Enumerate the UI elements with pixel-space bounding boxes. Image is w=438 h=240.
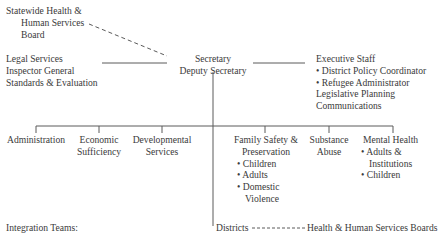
secretary-label: Secretary xyxy=(170,53,256,65)
executive-staff-node: Executive Staff District Policy Coordina… xyxy=(316,53,426,112)
division-family-safety: Family Safety & Preservation Children Ad… xyxy=(234,134,298,205)
bullet-adults: Adults xyxy=(234,169,298,181)
deputy-secretary-label: Deputy Secretary xyxy=(170,65,256,77)
inspector-general-label: Inspector General xyxy=(6,65,98,77)
legislative-planning-label: Legislative Planning xyxy=(316,88,426,100)
division-title-line-1: Substance xyxy=(304,134,354,146)
statewide-board-node: Statewide Health & Human Services Board xyxy=(6,5,84,40)
integration-teams-label: Integration Teams: xyxy=(6,222,78,234)
legal-services-label: Legal Services xyxy=(6,53,98,65)
bullet-adults: Adults & xyxy=(361,146,418,158)
integration-teams-cutoff xyxy=(6,234,66,240)
district-policy-coordinator: District Policy Coordinator xyxy=(316,65,426,77)
bullet-domestic: Domestic xyxy=(234,181,298,193)
division-title-line-2: Abuse xyxy=(304,146,354,158)
division-title: Administration xyxy=(0,134,72,146)
districts-label: Districts xyxy=(216,222,249,234)
division-administration: Administration xyxy=(0,134,72,146)
bullet-children: Children xyxy=(234,158,298,170)
refugee-administrator: Refugee Administrator xyxy=(316,77,426,89)
division-substance-abuse: Substance Abuse xyxy=(304,134,354,158)
standards-evaluation-label: Standards & Evaluation xyxy=(6,77,98,89)
bullet-institutions-continued: Institutions xyxy=(361,158,418,170)
division-mental-health: Mental Health Adults & Institutions Chil… xyxy=(361,134,418,181)
statewide-board-line-1: Statewide Health & xyxy=(6,5,84,17)
left-staff-node: Legal Services Inspector General Standar… xyxy=(6,53,98,88)
division-title-line-1: Developmental xyxy=(124,134,200,146)
statewide-board-line-3: Board xyxy=(6,29,84,41)
bullet-children: Children xyxy=(361,169,418,181)
communications-label: Communications xyxy=(316,100,426,112)
division-title-line-1: Family Safety & xyxy=(234,134,298,146)
division-title-line-2: Services xyxy=(124,146,200,158)
statewide-board-line-2: Human Services xyxy=(6,17,84,29)
hhs-boards-label: Health & Human Services Boards xyxy=(307,222,438,234)
executive-staff-title: Executive Staff xyxy=(316,53,426,65)
division-title: Mental Health xyxy=(361,134,418,146)
division-developmental-services: Developmental Services xyxy=(124,134,200,158)
division-title-line-2: Preservation xyxy=(234,146,298,158)
bullet-violence-continued: Violence xyxy=(234,193,298,205)
secretary-node: Secretary Deputy Secretary xyxy=(170,53,256,77)
